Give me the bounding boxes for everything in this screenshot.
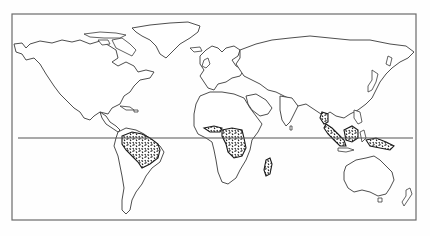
sumatra-rainforest: [324, 124, 346, 146]
java: [338, 148, 354, 152]
new-guinea-rainforest: [366, 138, 394, 150]
central-america: [100, 112, 120, 132]
europe: [200, 46, 244, 90]
hispaniola: [134, 110, 138, 112]
australia: [344, 156, 394, 196]
tasmania: [378, 198, 382, 202]
map-canvas: [0, 0, 430, 236]
world-map: [0, 0, 430, 236]
malay-peninsula-rainforest: [320, 112, 328, 124]
iceland: [190, 47, 202, 52]
borneo-rainforest: [344, 126, 358, 142]
arctic-islands: [84, 32, 126, 38]
new-zealand: [402, 188, 412, 206]
philippines: [354, 110, 362, 124]
cuba: [120, 106, 134, 110]
sulawesi: [360, 130, 366, 142]
madagascar-rainforest: [264, 158, 272, 176]
greenland: [132, 22, 200, 58]
sri-lanka: [290, 126, 292, 130]
